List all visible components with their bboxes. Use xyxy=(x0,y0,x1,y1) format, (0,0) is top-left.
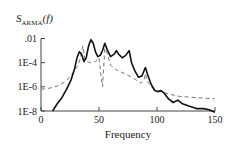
chart-svg: SARMA(f) .011E-41E-61E-8 050100150 Frequ… xyxy=(0,0,236,160)
y-tick-label: .01 xyxy=(25,33,38,44)
dashed-series-line xyxy=(41,46,215,99)
x-tick-label: 50 xyxy=(94,114,104,125)
y-axis-label: SARMA(f) xyxy=(16,12,53,27)
y-tick-label: 1E-6 xyxy=(18,81,37,92)
x-tick-label: 0 xyxy=(39,114,44,125)
axes: .011E-41E-61E-8 050100150 xyxy=(18,33,223,125)
y-tick-label: 1E-8 xyxy=(18,106,37,117)
x-tick-label: 150 xyxy=(208,114,223,125)
y-tick-label: 1E-4 xyxy=(18,57,37,68)
x-tick-label: 100 xyxy=(150,114,165,125)
x-ticks: 050100150 xyxy=(39,107,223,125)
x-axis-label: Frequency xyxy=(105,128,152,140)
solid-series-line xyxy=(53,40,215,113)
